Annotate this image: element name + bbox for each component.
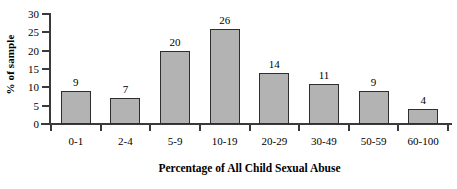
y-axis-ticks: 302520151050 (0, 0, 51, 189)
y-axis-tick-mark (42, 86, 50, 88)
x-axis-category-label: 5-9 (150, 136, 200, 147)
x-axis-category-label: 50-59 (349, 136, 399, 147)
x-axis-tick-mark (149, 125, 151, 131)
x-axis-category-label: 10-19 (200, 136, 250, 147)
y-axis-tick-mark (42, 13, 50, 15)
bar (110, 98, 140, 124)
bar-slot: 4 (398, 0, 448, 124)
y-axis-tick-label: 15 (7, 64, 39, 75)
y-axis-tick-label: 10 (7, 82, 39, 93)
x-axis-tick-mark (50, 125, 52, 131)
bar-slot: 9 (51, 0, 101, 124)
y-axis-tick-mark (42, 105, 50, 107)
y-axis-tick-mark (42, 50, 50, 52)
y-axis-tick-mark (42, 123, 50, 125)
bar-value-label: 20 (170, 37, 181, 48)
bar-value-label: 4 (420, 95, 426, 106)
x-axis-tick-mark (199, 125, 201, 131)
y-axis-tick-label: 25 (7, 27, 39, 38)
y-axis-tick-label: 30 (7, 9, 39, 20)
x-axis-category-label: 60-100 (398, 136, 448, 147)
bar (408, 109, 438, 124)
bar (259, 73, 289, 124)
bar-value-label: 7 (123, 84, 129, 95)
bar-value-label: 14 (269, 59, 280, 70)
bar (359, 91, 389, 124)
bar-value-label: 9 (371, 77, 377, 88)
bar-slot: 26 (200, 0, 250, 124)
y-axis-tick-label: 0 (7, 119, 39, 130)
bar (210, 29, 240, 124)
bar-slot: 20 (150, 0, 200, 124)
bar-value-label: 11 (319, 70, 330, 81)
y-axis-tick-mark (42, 68, 50, 70)
x-axis-tick-mark (447, 125, 449, 131)
x-axis-tick-mark (100, 125, 102, 131)
y-axis-tick-label: 5 (7, 101, 39, 112)
bar-value-label: 9 (73, 77, 79, 88)
x-axis-category-label: 2-4 (101, 136, 151, 147)
x-axis-title: Percentage of All Child Sexual Abuse (51, 163, 448, 175)
bar-series: 972026141194 (51, 0, 448, 124)
bar-slot: 14 (250, 0, 300, 124)
x-axis-tick-mark (348, 125, 350, 131)
bar (160, 51, 190, 124)
x-axis-tick-mark (397, 125, 399, 131)
bar-slot: 7 (101, 0, 151, 124)
bar-chart: % of sample 302520151050 972026141194 0-… (0, 0, 457, 189)
x-axis-category-label: 30-49 (299, 136, 349, 147)
x-axis-category-label: 20-29 (250, 136, 300, 147)
x-axis-category-labels: 0-12-45-910-1920-2930-4950-5960-100 (51, 136, 448, 152)
bar (309, 84, 339, 124)
bar (61, 91, 91, 124)
x-axis-tick-mark (298, 125, 300, 131)
y-axis-tick-mark (42, 31, 50, 33)
x-axis-tick-mark (249, 125, 251, 131)
bar-slot: 11 (299, 0, 349, 124)
bar-slot: 9 (349, 0, 399, 124)
y-axis-tick-label: 20 (7, 46, 39, 57)
x-axis-category-label: 0-1 (51, 136, 101, 147)
bar-value-label: 26 (219, 15, 230, 26)
